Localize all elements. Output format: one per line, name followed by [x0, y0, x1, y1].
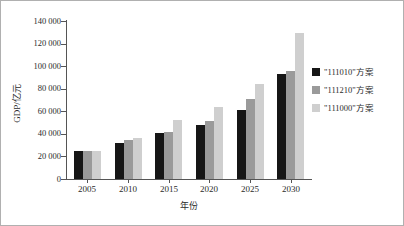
- legend-item: "111010"方案: [312, 63, 404, 81]
- y-axis-tick-label: 20 000: [5, 152, 61, 161]
- x-axis-title: 年份: [67, 199, 311, 212]
- y-axis-tick: [61, 179, 67, 180]
- bar: [196, 125, 205, 179]
- bar: [277, 74, 286, 179]
- bar-group: [115, 21, 142, 179]
- bar: [74, 151, 83, 179]
- bar: [237, 110, 246, 179]
- bar: [133, 138, 142, 179]
- bar: [295, 33, 304, 179]
- y-axis-tick-label: 140 000: [5, 17, 61, 26]
- bar-group: [277, 21, 304, 179]
- bar-group: [237, 21, 264, 179]
- legend-swatch-icon: [312, 68, 320, 76]
- x-axis-tick-label: 2020: [187, 185, 231, 194]
- bar-group: [155, 21, 182, 179]
- x-axis-tick: [250, 179, 251, 183]
- x-axis-tick: [209, 179, 210, 183]
- x-axis-tick-label: 2015: [147, 185, 191, 194]
- bar: [286, 71, 295, 179]
- legend-item: "111000"方案: [312, 99, 404, 117]
- legend-swatch-icon: [312, 86, 320, 94]
- bar: [124, 140, 133, 179]
- x-axis-tick: [128, 179, 129, 183]
- x-axis-tick-label: 2030: [269, 185, 313, 194]
- bar: [115, 143, 124, 179]
- y-axis-title: GDP/亿元: [10, 68, 23, 140]
- legend-item: "111210"方案: [312, 81, 404, 99]
- bar: [164, 132, 173, 179]
- plot-area: [67, 21, 311, 179]
- x-axis-tick-label: 2005: [65, 185, 109, 194]
- legend-label: "111210"方案: [324, 86, 374, 95]
- chart-legend: "111010"方案"111210"方案"111000"方案: [312, 63, 404, 117]
- bar: [92, 151, 101, 179]
- chart-figure: 020 00040 00060 00080 000100 000120 0001…: [0, 0, 404, 226]
- bar-group: [196, 21, 223, 179]
- legend-label: "111010"方案: [324, 68, 374, 77]
- bar: [205, 121, 214, 179]
- y-axis-tick-label: 120 000: [5, 39, 61, 48]
- x-axis-tick: [291, 179, 292, 183]
- bar: [214, 107, 223, 179]
- x-axis-tick-label: 2025: [228, 185, 272, 194]
- x-axis-tick-label: 2010: [106, 185, 150, 194]
- bar: [255, 84, 264, 179]
- legend-swatch-icon: [312, 104, 320, 112]
- x-axis-tick: [87, 179, 88, 183]
- legend-label: "111000"方案: [324, 104, 374, 113]
- x-axis-tick: [169, 179, 170, 183]
- bar: [155, 133, 164, 179]
- bar: [246, 99, 255, 179]
- bar-group: [74, 21, 101, 179]
- bar: [173, 120, 182, 179]
- y-axis-tick-label: 0: [5, 175, 61, 184]
- x-axis-line: [66, 179, 312, 180]
- bar: [83, 151, 92, 179]
